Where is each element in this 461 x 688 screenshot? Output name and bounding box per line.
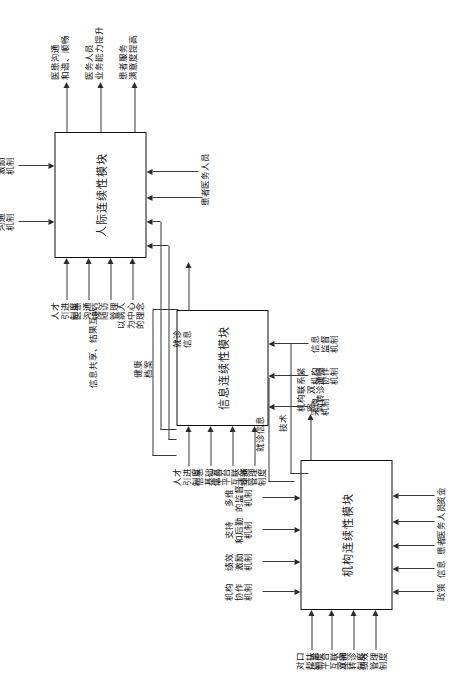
arrow-inter-side-2 bbox=[48, 163, 54, 169]
arrow-inst-side-2 bbox=[294, 559, 300, 565]
label-inter-out-3: 患者服务 满意度提高 bbox=[118, 0, 137, 80]
arrow-info-bot-3 bbox=[268, 341, 274, 347]
arrow-info-top-1 bbox=[185, 426, 191, 432]
conn-hr2-v2 bbox=[152, 221, 160, 222]
arrow-inst-top-1 bbox=[308, 610, 314, 616]
conn-inter-side-2 bbox=[18, 165, 48, 166]
conn-inst-top-2 bbox=[331, 616, 332, 650]
conn-info-top-2 bbox=[210, 432, 211, 466]
arrow-inst-side-4 bbox=[294, 495, 300, 501]
module-institution-label: 机构连续性模块 bbox=[338, 493, 354, 577]
label-tech: 技术 bbox=[278, 408, 288, 438]
diagram-canvas: 机构连续性模块 对口 帮扶 制度 信息 平台 互联 互通 双向 转诊 制度 绩效… bbox=[0, 0, 461, 688]
conn-visit2-v1 bbox=[268, 481, 294, 482]
conn-visit-info-h bbox=[168, 246, 169, 440]
module-institution[interactable]: 机构连续性模块 bbox=[300, 460, 392, 610]
module-interpersonal-label: 人际连续性模块 bbox=[92, 153, 108, 237]
arrow-inst-bot-1 bbox=[392, 589, 398, 595]
arrow-info-output bbox=[185, 262, 191, 268]
conn-inter-out-1 bbox=[66, 88, 67, 132]
label-inter-out-2: 医务人员 业务能力提升 bbox=[84, 0, 103, 80]
conn-inter-top-2 bbox=[88, 264, 89, 300]
conn-inst-output bbox=[310, 420, 311, 460]
arrow-inst-side-1 bbox=[294, 589, 300, 595]
label-health-record: 健康 档案 bbox=[133, 350, 152, 388]
arrow-inst-top-2 bbox=[328, 610, 334, 616]
arrow-inter-top-2 bbox=[85, 258, 91, 264]
label-inter-side-1: 医患 沟通 机制 bbox=[0, 202, 15, 242]
conn-health-record-v2 bbox=[152, 309, 178, 310]
conn-inst-bot-2 bbox=[398, 568, 434, 569]
arrow-inst-side-3 bbox=[294, 527, 300, 533]
arrow-inst-bot-5 bbox=[392, 493, 398, 499]
conn-inst-side-1 bbox=[262, 591, 294, 592]
conn-visit2-h bbox=[268, 378, 269, 482]
arrow-inst-bot-2 bbox=[392, 566, 398, 572]
conn-inst-bot-1 bbox=[398, 591, 434, 592]
conn-tech-h bbox=[290, 344, 291, 474]
arrow-inter-out-3 bbox=[131, 82, 137, 88]
arrow-visit-info bbox=[146, 243, 152, 249]
conn-inter-bot-4 bbox=[152, 171, 198, 172]
label-inst-bot-5: 资金 bbox=[436, 478, 446, 514]
label-visit-info-mid: 就诊 信息 bbox=[172, 320, 191, 358]
arrow-inter-top-3 bbox=[107, 258, 113, 264]
conn-inst-top-3 bbox=[353, 616, 354, 650]
conn-inter-top-4 bbox=[132, 264, 133, 300]
conn-info-top-3 bbox=[232, 432, 233, 466]
arrow-info-top-2 bbox=[207, 426, 213, 432]
arrow-inst-bot-4 bbox=[392, 519, 398, 525]
conn-inter-out-3 bbox=[134, 88, 135, 132]
conn-inter-side-1 bbox=[18, 221, 48, 222]
label-info-top-4: 绩效 管理 制度 bbox=[238, 468, 267, 512]
arrow-hr2 bbox=[146, 219, 152, 225]
arrow-inter-out-2 bbox=[97, 82, 103, 88]
arrow-inter-bot-4 bbox=[146, 169, 152, 175]
conn-inter-top-3 bbox=[110, 264, 111, 300]
conn-inst-bot-5 bbox=[398, 495, 434, 496]
arrow-inst-bot-3 bbox=[392, 543, 398, 549]
label-inter-top-2: 医患 沟通 规范 bbox=[72, 302, 101, 346]
arrow-inter-top-4 bbox=[129, 258, 135, 264]
conn-tech-v1 bbox=[290, 473, 308, 474]
conn-info-top-1 bbox=[188, 432, 189, 466]
conn-info-output bbox=[188, 268, 189, 310]
label-info-bot-3: 信息 监督 机制 bbox=[310, 325, 339, 363]
conn-inst-side-3 bbox=[262, 529, 294, 530]
conn-inst-top-1 bbox=[311, 616, 312, 650]
conn-health-record-v bbox=[152, 455, 176, 456]
label-inter-side-2: 绩效 激励 机制 bbox=[0, 146, 15, 186]
label-inter-top-4: 以病人 为中心 的理念 bbox=[116, 302, 145, 352]
conn-hr2-h bbox=[160, 222, 161, 430]
conn-inst-top-4 bbox=[375, 616, 376, 650]
arrow-inst-top-3 bbox=[350, 610, 356, 616]
module-information-label: 信息连续性模块 bbox=[214, 326, 230, 410]
conn-inter-out-2 bbox=[100, 88, 101, 132]
label-inter-out-1: 医患沟通 和谐、顺畅 bbox=[50, 0, 69, 80]
conn-inter-bot-3 bbox=[152, 197, 198, 198]
conn-inst-side-2 bbox=[262, 561, 294, 562]
conn-inst-bot-4 bbox=[398, 521, 434, 522]
conn-inst-bot-3 bbox=[398, 545, 434, 546]
module-interpersonal[interactable]: 人际连续性模块 bbox=[54, 132, 146, 258]
arrow-inter-top-1 bbox=[63, 258, 69, 264]
arrow-inter-side-1 bbox=[48, 219, 54, 225]
arrow-inter-bot-3 bbox=[146, 195, 152, 201]
conn-hr2-v1 bbox=[160, 429, 176, 430]
arrow-inst-top-4 bbox=[372, 610, 378, 616]
conn-inter-top-1 bbox=[66, 264, 67, 300]
arrow-inter-out-1 bbox=[63, 82, 69, 88]
label-visit-info-2: 就诊信息 bbox=[255, 408, 265, 460]
arrow-info-top-3 bbox=[229, 426, 235, 432]
label-inst-top-4: 绩效 管理 制度 bbox=[359, 652, 388, 688]
